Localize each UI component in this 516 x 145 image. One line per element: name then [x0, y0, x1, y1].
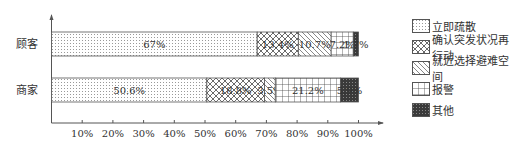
value-label: 5.9%: [337, 85, 362, 96]
legend: 立即疏散确认突发状况再行动就近选择避难空间报警其他: [412, 15, 516, 120]
x-tick-label: 60%: [225, 128, 247, 139]
grid-pattern-swatch-icon: [412, 82, 430, 96]
dots-pattern-swatch-icon: [412, 19, 430, 33]
x-tick-label: 70%: [255, 128, 277, 139]
legend-label: 报警: [432, 81, 454, 97]
value-label: 21.2%: [292, 85, 324, 96]
value-label: 50.6%: [113, 85, 145, 96]
legend-label: 就近选择避难空间: [432, 52, 516, 84]
x-tick-label: 20%: [102, 128, 124, 139]
x-tick-label: 30%: [132, 128, 154, 139]
x-tick-label: 50%: [194, 128, 216, 139]
x-tick-label: 80%: [286, 128, 308, 139]
dark-pattern-swatch-icon: [412, 103, 430, 117]
x-tick-label: 40%: [163, 128, 185, 139]
category-label: 商家: [16, 83, 38, 97]
value-label: 18.8%: [220, 85, 252, 96]
x-tick-label: 90%: [317, 128, 339, 139]
value-label: 13.4%: [262, 39, 294, 50]
x-tick-label: 10%: [71, 128, 93, 139]
category-label: 顾客: [16, 37, 38, 51]
stacked-bar-chart: 10%20%30%40%50%60%70%80%90%100%顾客67%13.4…: [0, 0, 516, 145]
legend-label: 其他: [432, 102, 454, 118]
value-label: 1.7%: [343, 39, 368, 50]
crosshatch-pattern-swatch-icon: [412, 40, 430, 54]
value-label: 67%: [143, 39, 165, 50]
y-axis-arrow-icon: [50, 14, 54, 20]
x-tick-label: 100%: [344, 128, 373, 139]
diagonal-pattern-swatch-icon: [412, 61, 430, 75]
legend-item: 其他: [412, 99, 516, 120]
x-axis-arrow-icon: [378, 121, 384, 125]
value-label: 10.7%: [299, 39, 331, 50]
legend-item: 就近选择避难空间: [412, 57, 516, 78]
